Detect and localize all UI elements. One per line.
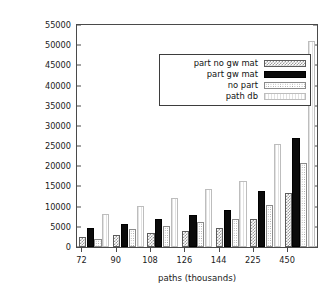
legend-label: no part <box>228 81 258 89</box>
legend-label: part gw mat <box>207 70 258 78</box>
legend: part no gw matpart gw matno partpath db <box>159 54 311 106</box>
y-tick-label: 50000 <box>45 41 77 49</box>
x-tick-label: 108 <box>142 256 158 264</box>
y-tick-label: 10000 <box>45 203 77 211</box>
legend-swatch <box>264 82 306 89</box>
bar <box>121 224 128 247</box>
x-tick-mark <box>150 248 151 252</box>
bar <box>87 228 94 247</box>
bar <box>258 191 265 247</box>
bar <box>137 206 144 247</box>
bar <box>94 239 101 247</box>
bar <box>113 235 120 247</box>
y-tick-label: 45000 <box>45 61 77 69</box>
legend-item: part gw mat <box>164 69 306 80</box>
x-axis-label: paths (thousands) <box>158 273 236 283</box>
legend-label: part no gw mat <box>194 59 258 67</box>
y-tick-label: 20000 <box>45 162 77 170</box>
x-tick-mark <box>184 248 185 252</box>
plot-area: 0500010000150002000025000300003500040000… <box>76 24 318 248</box>
bar <box>197 222 204 247</box>
y-tick-label: 40000 <box>45 81 77 89</box>
x-tick-mark <box>219 248 220 252</box>
x-tick-label: 450 <box>279 256 295 264</box>
bar <box>300 163 307 247</box>
legend-swatch <box>264 60 306 67</box>
bar <box>182 231 189 247</box>
x-tick-label: 90 <box>111 256 121 264</box>
bar <box>102 214 109 247</box>
y-tick-label: 5000 <box>50 223 77 231</box>
x-tick-label: 225 <box>245 256 261 264</box>
bar <box>129 229 136 247</box>
bar <box>232 219 239 247</box>
bar <box>155 219 162 247</box>
y-tick-label: 25000 <box>45 142 77 150</box>
legend-swatch <box>264 71 306 78</box>
bar <box>189 215 196 247</box>
y-tick-label: 30000 <box>45 122 77 130</box>
bar <box>163 226 170 247</box>
bar <box>79 237 86 247</box>
legend-item: no part <box>164 80 306 91</box>
legend-swatch <box>264 93 306 100</box>
bar <box>205 189 212 247</box>
chart-figure: size (kbytes) 05000100001500020000250003… <box>0 0 336 297</box>
legend-label: path db <box>226 92 258 100</box>
bar <box>250 219 257 247</box>
y-tick-label: 15000 <box>45 182 77 190</box>
bar <box>147 233 154 247</box>
x-axis-ticks: 7290108126144225450 <box>76 250 318 266</box>
bar <box>285 193 292 247</box>
legend-item: part no gw mat <box>164 58 306 69</box>
x-tick-mark <box>287 248 288 252</box>
bar <box>171 198 178 247</box>
bar <box>292 138 299 247</box>
x-tick-label: 144 <box>211 256 227 264</box>
x-tick-label: 72 <box>76 256 86 264</box>
bar <box>224 210 231 247</box>
bar-group <box>113 25 144 247</box>
x-tick-mark <box>116 248 117 252</box>
bar <box>216 228 223 247</box>
x-tick-label: 126 <box>176 256 192 264</box>
bar <box>266 205 273 247</box>
y-tick-label: 35000 <box>45 102 77 110</box>
bar <box>239 181 246 247</box>
bar-group <box>79 25 110 247</box>
y-tick-label: 55000 <box>45 21 77 29</box>
x-tick-mark <box>81 248 82 252</box>
x-tick-mark <box>253 248 254 252</box>
legend-item: path db <box>164 91 306 102</box>
bar <box>274 144 281 247</box>
